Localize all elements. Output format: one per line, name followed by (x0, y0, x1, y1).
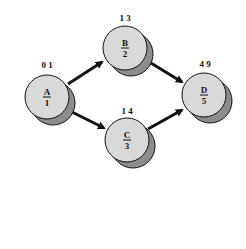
node-duration: 5 (202, 96, 207, 106)
node-times-label: 0 1 (41, 60, 53, 70)
node-name: B (122, 38, 128, 48)
node-times-label: 1 4 (121, 106, 133, 116)
node-duration: 3 (125, 141, 130, 151)
node-times-label: 4 9 (199, 59, 211, 69)
network-diagram: 0 1 A 1 1 3 B 2 1 4 C 3 4 9 D 5 (0, 0, 246, 249)
node-duration: 2 (123, 49, 128, 59)
node-b: 1 3 B 2 (103, 13, 153, 76)
edge-a-to-c (68, 110, 104, 128)
edge-a-to-b (68, 62, 102, 84)
node-a: 0 1 A 1 (25, 60, 75, 125)
node-times-label: 1 3 (119, 13, 131, 23)
node-c: 1 4 C 3 (105, 106, 155, 168)
node-name: D (201, 85, 208, 95)
node-d: 4 9 D 5 (182, 59, 232, 123)
node-name: A (44, 87, 51, 97)
node-duration: 1 (45, 98, 50, 108)
edge-c-to-d (148, 110, 182, 129)
node-name: C (124, 130, 131, 140)
